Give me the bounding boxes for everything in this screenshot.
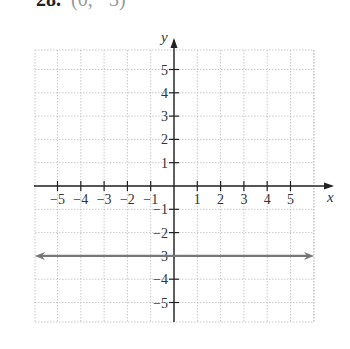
y-tick-label: −4 (153, 272, 168, 287)
y-tick-label: 4 (161, 86, 168, 101)
y-axis-label: y (159, 29, 168, 45)
y-axis-arrow-icon (171, 38, 178, 48)
x-tick-label: −2 (120, 192, 135, 207)
x-tick-label: 3 (240, 192, 247, 207)
y-tick-label: 5 (161, 63, 168, 78)
x-tick-label: 2 (217, 192, 224, 207)
x-axis-label: x (326, 189, 334, 205)
x-tick-label: −5 (50, 192, 65, 207)
y-tick-label: 2 (161, 132, 168, 147)
y-tick-label: −2 (153, 226, 168, 241)
y-tick-label: 3 (161, 109, 168, 124)
x-tick-label: 4 (264, 192, 271, 207)
x-tick-label: −3 (97, 192, 112, 207)
coordinate-plane: xy−5−4−3−2−112345−5−4−3−2−112345 (0, 0, 350, 349)
y-tick-label: 1 (161, 156, 168, 171)
x-tick-label: 1 (194, 192, 201, 207)
x-tick-label: −4 (73, 192, 88, 207)
x-tick-label: 5 (287, 192, 294, 207)
y-tick-label: −5 (153, 296, 168, 311)
y-tick-label: −1 (153, 202, 168, 217)
